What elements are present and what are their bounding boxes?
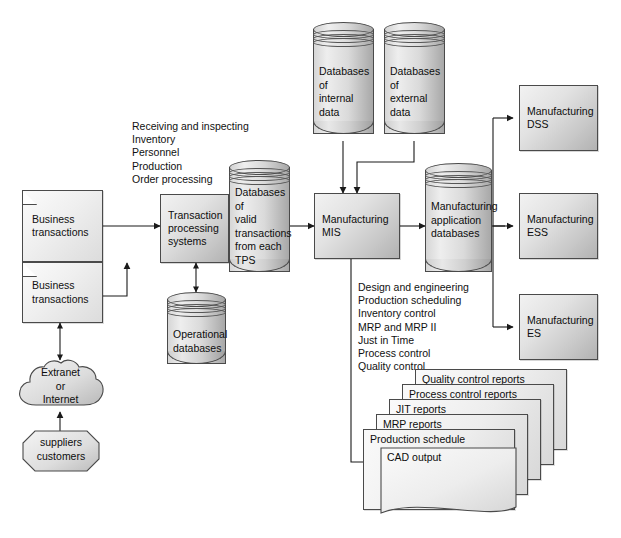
manufacturing-mis-box[interactable]: Manufacturing MIS (314, 193, 400, 259)
suppliers-customers-label: suppliers customers (22, 436, 100, 463)
report-label: CAD output (387, 451, 441, 464)
external-data-databases-cylinder[interactable]: Databases of external data (384, 22, 445, 141)
manufacturing-es-box[interactable]: Manufacturing ES (519, 294, 598, 360)
cylinder-rib (229, 176, 290, 185)
manufacturing-es-label: Manufacturing ES (527, 314, 594, 340)
manufacturing-dss-box[interactable]: Manufacturing DSS (519, 85, 598, 151)
valid-transactions-label: Databases of valid transactions from eac… (235, 186, 292, 267)
business-transactions-label-2: Business transactions (32, 279, 89, 306)
business-transactions-label-1: Business transactions (32, 213, 89, 240)
transaction-processing-systems-box[interactable]: Transaction processing systems (160, 194, 229, 263)
valid-transactions-databases-cylinder[interactable]: Databases of valid transactions from eac… (229, 160, 290, 279)
page-fold-icon (23, 263, 37, 277)
diagram-canvas: Business transactions Business transacti… (0, 0, 621, 538)
operational-databases-label: Operational databases (173, 328, 227, 355)
manufacturing-ess-label: Manufacturing ESS (527, 213, 594, 239)
cylinder-rib (384, 38, 445, 47)
extranet-internet-cloud[interactable]: Extranet or Internet (14, 358, 107, 414)
cylinder-rib (167, 308, 226, 317)
manufacturing-app-db-label: Manufacturing application databases (431, 200, 498, 241)
extranet-internet-label: Extranet or Internet (14, 366, 107, 407)
manufacturing-subsystems-label: Design and engineering Production schedu… (358, 281, 469, 373)
manufacturing-mis-label: Manufacturing MIS (322, 213, 389, 239)
business-transactions-doc-2[interactable]: Business transactions (22, 262, 103, 323)
operational-databases-cylinder[interactable]: Operational databases (167, 292, 226, 371)
internal-data-label: Databases of internal data (319, 65, 369, 119)
manufacturing-ess-box[interactable]: Manufacturing ESS (519, 193, 598, 259)
external-data-label: Databases of external data (390, 65, 440, 119)
internal-data-databases-cylinder[interactable]: Databases of internal data (313, 22, 374, 141)
business-transactions-doc-1[interactable]: Business transactions (22, 190, 103, 262)
manufacturing-application-databases-cylinder[interactable]: Manufacturing application databases (425, 163, 492, 279)
report-sheet-cad-output[interactable]: CAD output (380, 447, 517, 519)
page-fold-icon (23, 191, 37, 205)
cylinder-rib (425, 179, 492, 188)
manufacturing-dss-label: Manufacturing DSS (527, 105, 594, 131)
report-label: Production schedule (370, 433, 465, 446)
cylinder-rib (313, 38, 374, 47)
suppliers-customers-octagon[interactable]: suppliers customers (22, 430, 100, 472)
tps-label: Transaction processing systems (168, 209, 222, 248)
